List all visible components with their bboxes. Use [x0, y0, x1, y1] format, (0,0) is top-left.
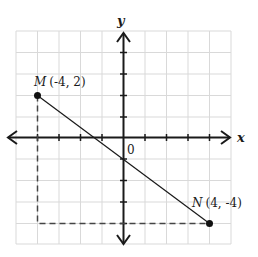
coordinate-plane: y x 0 M(-4, 2) N(4, -4) [0, 0, 258, 257]
point-n-coords: (4, -4) [206, 196, 242, 210]
point-n-label: N(4, -4) [191, 196, 242, 210]
point-m-coords: (-4, 2) [49, 75, 85, 89]
y-axis-label: y [116, 13, 126, 28]
point-n-name: N [191, 196, 203, 210]
point-m-label: M(-4, 2) [33, 75, 86, 89]
point-m-name: M [33, 75, 47, 89]
origin-label: 0 [127, 143, 135, 157]
x-axis-label: x [236, 130, 245, 145]
x-axis [8, 131, 230, 144]
point-m [34, 92, 41, 99]
point-n [206, 220, 213, 227]
